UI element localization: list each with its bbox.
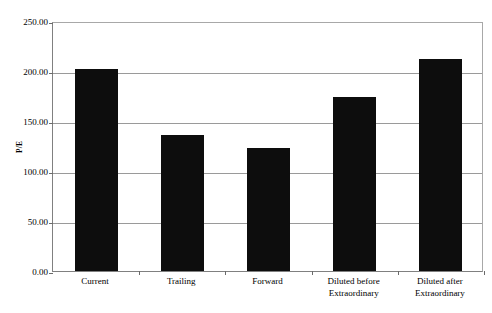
- y-axis-tick-label: 100.00: [4, 168, 48, 177]
- y-axis-tickmark: [49, 23, 53, 24]
- y-axis-tickmark: [49, 123, 53, 124]
- plot-area: [52, 22, 483, 272]
- x-axis-category-label: Current: [52, 276, 138, 288]
- bar: [333, 97, 376, 271]
- y-axis-tickmark: [49, 73, 53, 74]
- y-axis-tick-label: 150.00: [4, 118, 48, 127]
- y-axis-tick-label: 250.00: [4, 18, 48, 27]
- x-axis-category-label: Diluted after Extraordinary: [397, 276, 483, 299]
- bar-chart: P/E 0.0050.00100.00150.00200.00250.00 Cu…: [0, 0, 492, 313]
- x-axis-tickmark: [225, 271, 226, 275]
- y-axis-tick-labels: 0.0050.00100.00150.00200.00250.00: [0, 0, 48, 313]
- x-axis-tickmark: [139, 271, 140, 275]
- y-axis-tick-label: 50.00: [4, 218, 48, 227]
- bar: [161, 135, 204, 271]
- x-axis-category-label: Forward: [224, 276, 310, 288]
- bar: [419, 59, 462, 271]
- x-axis-category-labels: CurrentTrailingForwardDiluted before Ext…: [52, 276, 483, 313]
- x-axis-category-label: Trailing: [138, 276, 224, 288]
- x-axis-tickmark: [312, 271, 313, 275]
- y-axis-tick-label: 200.00: [4, 68, 48, 77]
- x-axis-tickmark: [398, 271, 399, 275]
- x-axis-tickmark: [484, 271, 485, 275]
- bar: [247, 148, 290, 271]
- y-axis-tickmark: [49, 223, 53, 224]
- y-axis-tickmark: [49, 273, 53, 274]
- x-axis-category-label: Diluted before Extraordinary: [311, 276, 397, 299]
- y-axis-tick-label: 0.00: [4, 268, 48, 277]
- y-axis-tickmark: [49, 173, 53, 174]
- bar: [75, 69, 118, 271]
